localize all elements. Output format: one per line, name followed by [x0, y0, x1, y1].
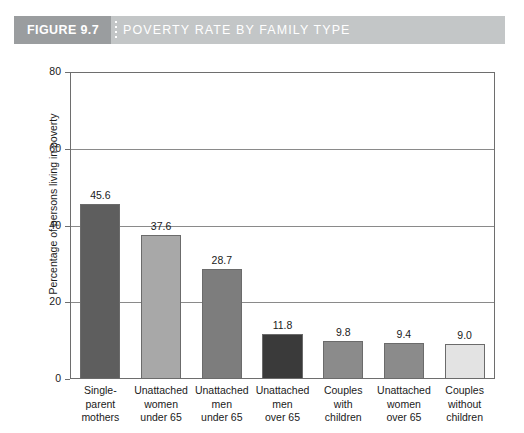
y-tick-label-20: 20 [21, 295, 61, 307]
bar[interactable] [80, 204, 120, 379]
y-tick-label-80: 80 [21, 65, 61, 77]
category-label-line: men [187, 398, 256, 412]
category-label-line: Unattached [187, 384, 256, 398]
bar[interactable] [445, 344, 485, 379]
bar-value-label: 9.0 [433, 329, 497, 341]
category-label-line: Couples [309, 384, 378, 398]
category-label-line: Couples [430, 384, 499, 398]
bar[interactable] [262, 334, 302, 379]
bar[interactable] [141, 235, 181, 379]
category-label-line: men [248, 398, 317, 412]
bar-group: 45.6 [80, 72, 120, 379]
category-label-line: Unattached [370, 384, 439, 398]
category-label-line: Unattached [127, 384, 196, 398]
bar-group: 9.8 [323, 72, 363, 379]
category-label-line: over 65 [248, 411, 317, 425]
category-label: Single-parentmothers [66, 384, 135, 425]
bar-group: 37.6 [141, 72, 181, 379]
category-label-line: with [309, 398, 378, 412]
bar-value-label: 11.8 [250, 319, 314, 331]
bar-value-label: 9.8 [311, 326, 375, 338]
category-label: Coupleswithchildren [309, 384, 378, 425]
bar-value-label: 9.4 [372, 328, 436, 340]
bar-value-label: 45.6 [68, 189, 132, 201]
y-tick-mark-0 [65, 379, 70, 380]
bar[interactable] [202, 269, 242, 379]
figure-number-badge: FIGURE 9.7 [14, 16, 111, 44]
category-label: Coupleswithoutchildren [430, 384, 499, 425]
category-label-line: under 65 [187, 411, 256, 425]
x-axis-category-labels: Single-parentmothersUnattachedwomenunder… [70, 384, 495, 432]
bar-group: 9.0 [445, 72, 485, 379]
bar-group: 28.7 [202, 72, 242, 379]
category-label: Unattachedmenover 65 [248, 384, 317, 425]
figure-header: FIGURE 9.7 POVERTY RATE BY FAMILY TYPE [14, 16, 505, 44]
bar[interactable] [384, 343, 424, 379]
category-label: Unattachedwomenover 65 [370, 384, 439, 425]
bar-series: 45.637.628.711.89.89.49.0 [70, 72, 495, 379]
y-tick-label-60: 60 [21, 142, 61, 154]
y-tick-label-0: 0 [21, 372, 61, 384]
category-label-line: women [370, 398, 439, 412]
bar-value-label: 28.7 [190, 254, 254, 266]
category-label-line: under 65 [127, 411, 196, 425]
category-label-line: children [430, 411, 499, 425]
category-label-line: Single- [66, 384, 135, 398]
category-label-line: children [309, 411, 378, 425]
bar-value-label: 37.6 [129, 220, 193, 232]
chart-container: Percentage of persons living in poverty … [0, 44, 524, 433]
figure-title: POVERTY RATE BY FAMILY TYPE [121, 16, 350, 44]
category-label-line: Unattached [248, 384, 317, 398]
bar-group: 11.8 [262, 72, 302, 379]
bar-group: 9.4 [384, 72, 424, 379]
category-label-line: women [127, 398, 196, 412]
header-dotted-separator [111, 16, 121, 44]
y-tick-label-40: 40 [21, 219, 61, 231]
category-label: Unattachedmenunder 65 [187, 384, 256, 425]
bar[interactable] [323, 341, 363, 379]
category-label-line: without [430, 398, 499, 412]
category-label-line: parent [66, 398, 135, 412]
category-label-line: over 65 [370, 411, 439, 425]
category-label-line: mothers [66, 411, 135, 425]
category-label: Unattachedwomenunder 65 [127, 384, 196, 425]
